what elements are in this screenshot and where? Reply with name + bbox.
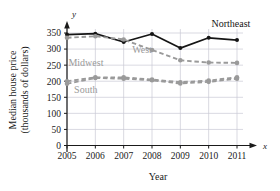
y-axis-ticks: 050100150200250300350 — [47, 28, 67, 150]
series-label-south: South — [74, 84, 97, 95]
data-point-marker — [93, 76, 98, 81]
y-tick-label: 300 — [47, 44, 62, 54]
y-axis-title-line2: (thousands of dollars) — [19, 46, 31, 133]
y-tick-label: 350 — [47, 28, 62, 38]
data-point-marker — [150, 78, 155, 83]
x-tick-label: 2010 — [199, 151, 218, 161]
x-tick-label: 2011 — [228, 151, 247, 161]
data-point-marker — [235, 38, 239, 42]
data-point-marker — [178, 46, 182, 50]
data-point-marker — [206, 80, 211, 85]
x-tick-label: 2009 — [171, 151, 190, 161]
y-tick-label: 200 — [47, 77, 62, 87]
y-tick-label: 150 — [47, 93, 62, 103]
data-point-marker — [207, 36, 211, 40]
x-tick-label: 2008 — [143, 151, 162, 161]
series-label-midwest: Midwest — [68, 57, 103, 68]
data-point-marker — [121, 37, 126, 42]
x-axis-variable-label: x — [262, 141, 267, 151]
y-tick-label: 250 — [47, 61, 62, 71]
x-tick-label: 2005 — [58, 151, 77, 161]
y-tick-label: 50 — [52, 125, 62, 135]
data-point-marker — [235, 76, 240, 81]
x-axis-title: Year — [149, 171, 168, 182]
x-tick-label: 2006 — [86, 151, 105, 161]
series-label-northeast: Northeast — [212, 18, 251, 29]
data-point-marker — [178, 81, 183, 86]
y-axis-title: Median house price (thousands of dollars… — [7, 46, 31, 133]
data-point-marker — [206, 60, 211, 65]
y-axis-variable-label: y — [71, 9, 76, 19]
data-point-marker — [65, 36, 70, 41]
x-axis-arrow — [250, 143, 258, 149]
data-point-marker — [65, 81, 70, 86]
x-axis-ticks: 2005200620072008200920102011 — [58, 146, 247, 161]
y-axis-title-line1: Median house price — [7, 50, 18, 129]
data-point-marker — [93, 34, 98, 39]
data-point-marker — [178, 58, 183, 63]
chart-figure: 050100150200250300350 200520062007200820… — [0, 0, 280, 191]
series-inline-labels: NortheastWestMidwestSouth — [68, 18, 250, 95]
y-axis-arrow — [64, 21, 70, 29]
data-point-marker — [121, 76, 126, 81]
series-label-west: West — [132, 44, 152, 55]
data-point-marker — [235, 61, 240, 66]
x-tick-label: 2007 — [114, 151, 133, 161]
data-point-marker — [150, 32, 154, 36]
y-tick-label: 100 — [47, 109, 62, 119]
y-tick-label: 0 — [56, 141, 61, 151]
line-chart: 050100150200250300350 200520062007200820… — [0, 0, 280, 191]
